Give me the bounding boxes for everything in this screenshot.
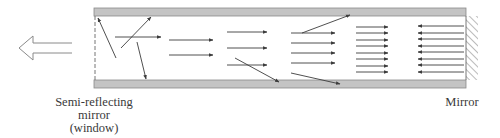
window-label-line3: (window): [24, 122, 164, 135]
stage-5-arrows: [356, 27, 388, 72]
stage-6-reflected-arrows: [418, 26, 464, 72]
stage-2-arrows: [169, 40, 213, 55]
mirror-label: Mirror: [432, 96, 492, 109]
stage-3-arrows: [227, 32, 279, 82]
stage-1-arrows: [98, 17, 161, 79]
hollow-left-arrow-icon: [19, 36, 72, 60]
bottom-wall: [94, 80, 466, 88]
hatched-mirror-icon: [466, 16, 478, 80]
stage-4-arrows: [291, 15, 350, 84]
top-wall: [94, 8, 466, 16]
semi-reflecting-mirror-label: Semi-reflecting mirror (window): [24, 96, 164, 135]
